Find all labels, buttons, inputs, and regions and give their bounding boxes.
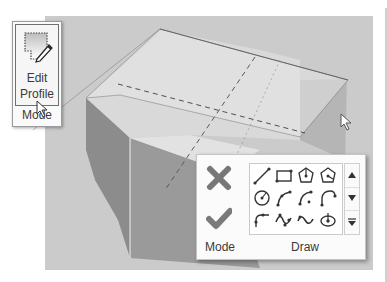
draw-tools-gallery (249, 163, 343, 235)
rectangle-tool-icon[interactable] (274, 166, 294, 186)
viewport-cursor-icon (340, 113, 354, 131)
finish-checkmark-icon[interactable] (206, 205, 232, 231)
scroll-down-button[interactable] (345, 187, 359, 211)
expand-gallery-button[interactable] (345, 210, 359, 233)
mouse-cursor-icon (36, 100, 50, 118)
button-label-line1: Edit (16, 71, 58, 85)
start-end-radius-arc-tool-icon[interactable] (274, 188, 294, 208)
ellipse-tool-icon[interactable] (296, 210, 316, 230)
scroll-up-button[interactable] (345, 164, 359, 188)
triangle-up-icon (348, 172, 356, 178)
draw-panel: Mode Draw (196, 154, 366, 260)
expand-icon (348, 218, 356, 226)
partial-ellipse-tool-icon[interactable] (318, 210, 338, 230)
circumscribed-polygon-tool-icon[interactable] (318, 166, 338, 186)
fillet-arc-tool-icon[interactable] (252, 210, 272, 230)
edit-profile-icon (23, 31, 53, 63)
line-tool-icon[interactable] (252, 166, 272, 186)
triangle-down-icon (348, 195, 356, 201)
tangent-end-arc-tool-icon[interactable] (318, 188, 338, 208)
panel-label-mode: Mode (205, 240, 235, 254)
circle-tool-icon[interactable] (252, 188, 272, 208)
spline-tool-icon[interactable] (274, 210, 294, 230)
gallery-scrollbar[interactable] (344, 163, 360, 235)
cancel-x-icon[interactable] (206, 165, 232, 191)
center-ends-arc-tool-icon[interactable] (296, 188, 316, 208)
inscribed-polygon-tool-icon[interactable] (296, 166, 316, 186)
edit-profile-button[interactable]: Edit Profile (15, 24, 59, 106)
panel-label-draw: Draw (291, 240, 319, 254)
button-label-line2: Profile (16, 87, 58, 101)
